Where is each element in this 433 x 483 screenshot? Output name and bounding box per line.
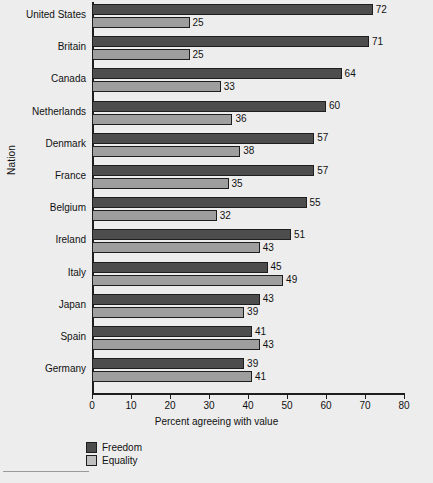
bar-group: United States7225 xyxy=(92,3,404,31)
category-label: Ireland xyxy=(55,234,86,245)
bar-equality: 25 xyxy=(92,49,190,60)
x-tick-label: 40 xyxy=(242,400,253,411)
x-axis-title: Percent agreeing with value xyxy=(0,416,433,427)
bar-equality: 43 xyxy=(92,339,260,350)
bar-group: Canada6433 xyxy=(92,67,404,95)
bar-group: Japan4339 xyxy=(92,293,404,321)
bar-value-label: 49 xyxy=(286,275,297,285)
bar-equality: 32 xyxy=(92,210,217,221)
bar-value-label: 32 xyxy=(220,211,231,221)
legend-item-equality: Equality xyxy=(86,454,142,466)
category-label: Denmark xyxy=(45,138,86,149)
x-tick xyxy=(326,393,327,399)
bar-value-label: 41 xyxy=(255,372,266,382)
chart-legend: Freedom Equality xyxy=(86,441,142,467)
x-tick xyxy=(92,393,93,399)
bar-group: Belgium5532 xyxy=(92,196,404,224)
bar-equality: 33 xyxy=(92,81,221,92)
x-tick-label: 70 xyxy=(359,400,370,411)
x-tick-label: 20 xyxy=(164,400,175,411)
bar-value-label: 39 xyxy=(247,359,258,369)
bar-freedom: 57 xyxy=(92,133,314,144)
bar-freedom: 60 xyxy=(92,101,326,112)
bar-value-label: 38 xyxy=(243,146,254,156)
bar-freedom: 57 xyxy=(92,165,314,176)
plot-area: United States7225Britain7125Canada6433Ne… xyxy=(92,2,404,394)
bar-value-label: 45 xyxy=(271,262,282,272)
bar-group: Italy4549 xyxy=(92,261,404,289)
x-tick-label: 0 xyxy=(89,400,95,411)
legend-label-equality: Equality xyxy=(102,455,138,466)
bar-value-label: 25 xyxy=(193,18,204,28)
bar-value-label: 60 xyxy=(329,101,340,111)
bar-value-label: 43 xyxy=(263,243,274,253)
bar-value-label: 36 xyxy=(235,114,246,124)
x-tick-label: 30 xyxy=(203,400,214,411)
category-label: Japan xyxy=(59,299,86,310)
bar-value-label: 39 xyxy=(247,307,258,317)
bar-freedom: 39 xyxy=(92,358,244,369)
y-axis-title: Nation xyxy=(6,145,17,175)
bar-value-label: 43 xyxy=(263,294,274,304)
bar-equality: 25 xyxy=(92,17,190,28)
x-tick xyxy=(248,393,249,399)
category-label: Britain xyxy=(58,41,86,52)
x-tick xyxy=(131,393,132,399)
x-tick xyxy=(404,393,405,399)
category-label: Belgium xyxy=(50,202,86,213)
bar-value-label: 64 xyxy=(345,69,356,79)
bar-chart: Nation United States7225Britain7125Canad… xyxy=(0,0,433,483)
bar-freedom: 45 xyxy=(92,262,268,273)
bar-group: France5735 xyxy=(92,164,404,192)
bar-group: Germany3941 xyxy=(92,357,404,385)
bar-value-label: 51 xyxy=(294,230,305,240)
legend-label-freedom: Freedom xyxy=(102,442,142,453)
bar-freedom: 72 xyxy=(92,4,373,15)
bar-freedom: 43 xyxy=(92,294,260,305)
bar-equality: 41 xyxy=(92,371,252,382)
legend-item-freedom: Freedom xyxy=(86,441,142,453)
legend-swatch-freedom xyxy=(86,442,97,453)
bar-group: Denmark5738 xyxy=(92,132,404,160)
category-label: United States xyxy=(26,9,86,20)
bar-equality: 36 xyxy=(92,114,232,125)
bar-freedom: 55 xyxy=(92,197,307,208)
bar-value-label: 33 xyxy=(224,82,235,92)
category-label: Italy xyxy=(68,267,86,278)
bar-value-label: 41 xyxy=(255,327,266,337)
category-label: Canada xyxy=(51,73,86,84)
bar-value-label: 35 xyxy=(232,179,243,189)
bar-group: Spain4143 xyxy=(92,325,404,353)
x-tick-label: 80 xyxy=(398,400,409,411)
bar-equality: 43 xyxy=(92,242,260,253)
footer-divider xyxy=(3,471,89,472)
bar-freedom: 41 xyxy=(92,326,252,337)
bar-value-label: 57 xyxy=(317,166,328,176)
bar-group: Britain7125 xyxy=(92,35,404,63)
bar-freedom: 71 xyxy=(92,36,369,47)
bar-equality: 39 xyxy=(92,307,244,318)
x-tick xyxy=(170,393,171,399)
bar-value-label: 71 xyxy=(372,37,383,47)
category-label: Spain xyxy=(60,331,86,342)
bar-value-label: 43 xyxy=(263,340,274,350)
bar-equality: 38 xyxy=(92,146,240,157)
x-tick xyxy=(365,393,366,399)
x-tick-label: 10 xyxy=(125,400,136,411)
category-label: France xyxy=(55,170,86,181)
category-label: Netherlands xyxy=(32,106,86,117)
bar-equality: 35 xyxy=(92,178,229,189)
x-tick-label: 60 xyxy=(320,400,331,411)
bar-value-label: 72 xyxy=(376,5,387,15)
x-tick xyxy=(209,393,210,399)
bar-equality: 49 xyxy=(92,275,283,286)
bar-group: Ireland5143 xyxy=(92,228,404,256)
x-tick xyxy=(287,393,288,399)
x-tick-label: 50 xyxy=(281,400,292,411)
bar-value-label: 55 xyxy=(310,198,321,208)
bar-value-label: 25 xyxy=(193,50,204,60)
bar-freedom: 51 xyxy=(92,229,291,240)
bar-freedom: 64 xyxy=(92,68,342,79)
category-label: Germany xyxy=(45,363,86,374)
bar-group: Netherlands6036 xyxy=(92,100,404,128)
